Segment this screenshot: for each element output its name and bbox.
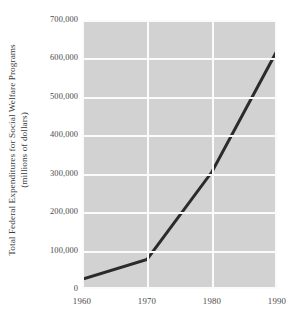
plot-area — [82, 20, 277, 289]
y-axis-tick-label: 300,000 — [32, 170, 78, 178]
y-axis-title-line1: Total Federal Expenditures for Social We… — [7, 44, 17, 256]
y-axis-title-line2: (millions of dollars) — [18, 44, 30, 256]
gridline-vertical — [82, 20, 84, 289]
x-axis-tick-label: 1970 — [117, 296, 177, 306]
gridline-horizontal — [82, 97, 277, 99]
gridline-horizontal — [82, 212, 277, 214]
gridline-horizontal — [82, 251, 277, 253]
y-axis-tick-label: 200,000 — [32, 208, 78, 216]
gridline-vertical — [147, 20, 149, 289]
x-axis-tick-label: 1960 — [52, 296, 112, 306]
gridline-horizontal — [82, 135, 277, 137]
y-axis-tick-label: 0 — [32, 285, 78, 293]
x-axis-tick-label: 1980 — [182, 296, 242, 306]
gridline-horizontal — [82, 174, 277, 176]
gridline-horizontal — [82, 287, 277, 289]
gridline-vertical — [212, 20, 214, 289]
x-axis-tick-label: 1990 — [247, 296, 300, 306]
y-axis-tick-label: 700,000 — [32, 16, 78, 24]
y-axis-tick-label: 500,000 — [32, 93, 78, 101]
y-axis-tick-label: 400,000 — [32, 131, 78, 139]
gridline-horizontal — [82, 20, 277, 22]
y-axis-tick-label: 100,000 — [32, 247, 78, 255]
chart-figure: Total Federal Expenditures for Social We… — [0, 0, 300, 324]
gridline-horizontal — [82, 58, 277, 60]
x-axis-tick-labels: 1960197019801990 — [0, 296, 300, 312]
y-axis-title: Total Federal Expenditures for Social We… — [0, 0, 36, 300]
y-axis-title-text: Total Federal Expenditures for Social We… — [6, 44, 30, 256]
gridline-vertical — [275, 20, 277, 289]
y-axis-tick-label: 600,000 — [32, 54, 78, 62]
y-axis-tick-labels: 0100,000200,000300,000400,000500,000600,… — [32, 0, 78, 324]
